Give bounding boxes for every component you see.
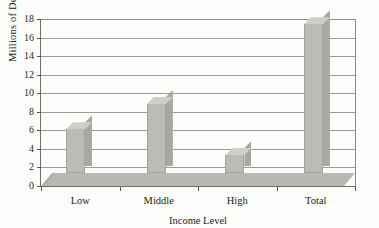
y-axis-tick-mark — [37, 75, 41, 76]
x-axis-tick-label: Low — [40, 195, 120, 206]
y-axis-tick-mark — [37, 130, 41, 131]
y-axis-tick-label: 14 — [12, 51, 34, 61]
y-axis-tick-mark — [37, 38, 41, 39]
chart-floor — [41, 173, 355, 186]
x-axis-tick-mark — [277, 187, 278, 191]
y-axis-tick-mark — [37, 93, 41, 94]
x-axis-tick-mark — [355, 187, 356, 191]
floor-top-face — [41, 173, 355, 186]
y-axis-line — [40, 19, 41, 187]
x-axis-tick-label: Total — [276, 195, 356, 206]
bar — [225, 155, 244, 173]
bar — [147, 104, 166, 173]
bar-outline — [304, 24, 323, 173]
bar-outline — [147, 104, 166, 173]
y-axis-tick-mark — [37, 19, 41, 20]
y-axis-tick-mark — [37, 56, 41, 57]
plot-area: 024681012141618 LowMiddleHighTotal Incom… — [41, 19, 355, 186]
bar — [304, 24, 323, 173]
y-axis-tick-label: 10 — [12, 88, 34, 98]
x-axis-tick-mark — [120, 187, 121, 191]
y-axis-tick-label: 4 — [12, 144, 34, 154]
y-axis-tick-label: 2 — [12, 162, 34, 172]
y-axis-tick-label: 6 — [12, 125, 34, 135]
y-axis-tick-label: 8 — [12, 107, 34, 117]
x-axis-tick-label: High — [197, 195, 277, 206]
y-axis-tick-label: 18 — [12, 14, 34, 24]
y-axis-tick-mark — [37, 149, 41, 150]
bar-outline — [66, 129, 85, 173]
y-axis-tick-mark — [37, 112, 41, 113]
y-axis-tick-label: 16 — [12, 33, 34, 43]
x-axis-tick-mark — [198, 187, 199, 191]
y-axis-tick-label: 0 — [12, 181, 34, 191]
y-axis-tick-label: 12 — [12, 70, 34, 80]
y-axis-tick-mark — [37, 167, 41, 168]
chart-figure: Millions of Deaths 024681012141618 LowMi… — [0, 0, 379, 228]
gridline — [41, 19, 355, 20]
x-axis-tick-mark — [41, 187, 42, 191]
bar-outline — [225, 155, 244, 173]
x-axis-title: Income Level — [41, 215, 355, 226]
bar — [66, 129, 85, 173]
bar-side-face — [323, 10, 330, 166]
plot-right-border — [355, 19, 356, 187]
x-axis-tick-label: Middle — [119, 195, 199, 206]
